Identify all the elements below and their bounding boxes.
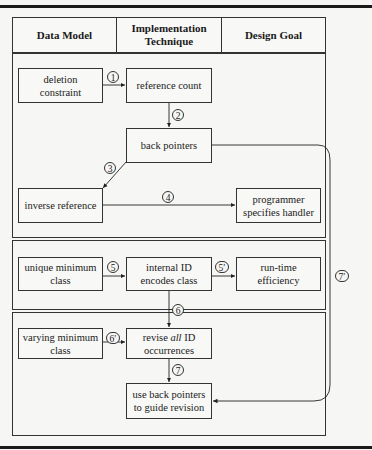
box-text: inverse reference (25, 199, 97, 212)
box-reference-count: reference count (126, 68, 212, 103)
box-text: revise all ID (143, 331, 196, 344)
box-text: programmer (253, 193, 305, 206)
edge-label-6-prime: 6′ (106, 332, 120, 344)
box-text: occurrences (144, 344, 194, 357)
box-text: to guide revision (134, 401, 205, 414)
box-text: specifies handler (243, 206, 314, 219)
edge-label-5-prime: 5′ (215, 261, 229, 273)
box-text: efficiency (258, 274, 300, 287)
box-text: varying minimum (23, 331, 99, 344)
box-internal-id: internal ID encodes class (126, 257, 212, 291)
box-text: encodes class (141, 274, 198, 287)
box-unique-minimum-class: unique minimum class (18, 257, 103, 291)
box-text: back pointers (141, 139, 197, 152)
edge-label-3: 3 (104, 162, 116, 174)
box-text: run-time (260, 261, 296, 274)
box-text: class (50, 274, 70, 287)
box-text: class (50, 344, 70, 357)
box-text: deletion (44, 73, 78, 86)
box-text: use back pointers (133, 388, 206, 401)
edge-label-4: 4 (162, 191, 174, 203)
box-runtime-efficiency: run-time efficiency (236, 257, 321, 291)
box-text: constraint (40, 86, 81, 99)
edge-label-5: 5 (107, 261, 119, 273)
edge-label-6: 6 (172, 304, 184, 316)
edge-label-1: 1 (107, 71, 119, 83)
box-programmer-handler: programmer specifies handler (236, 188, 321, 223)
box-back-pointers: back pointers (126, 128, 212, 163)
box-text: reference count (137, 79, 202, 92)
box-text: unique minimum (24, 261, 96, 274)
edge-label-7-prime: 7′ (335, 270, 349, 282)
box-revise-all: revise all ID occurrences (126, 328, 212, 359)
edge-label-7: 7 (172, 364, 184, 376)
box-deletion-constraint: deletion constraint (18, 68, 103, 103)
box-inverse-reference: inverse reference (18, 188, 103, 223)
edge-label-2: 2 (172, 109, 184, 121)
box-varying-minimum-class: varying minimum class (18, 328, 103, 359)
box-use-back-pointers: use back pointers to guide revision (126, 383, 212, 419)
box-text: internal ID (146, 261, 192, 274)
